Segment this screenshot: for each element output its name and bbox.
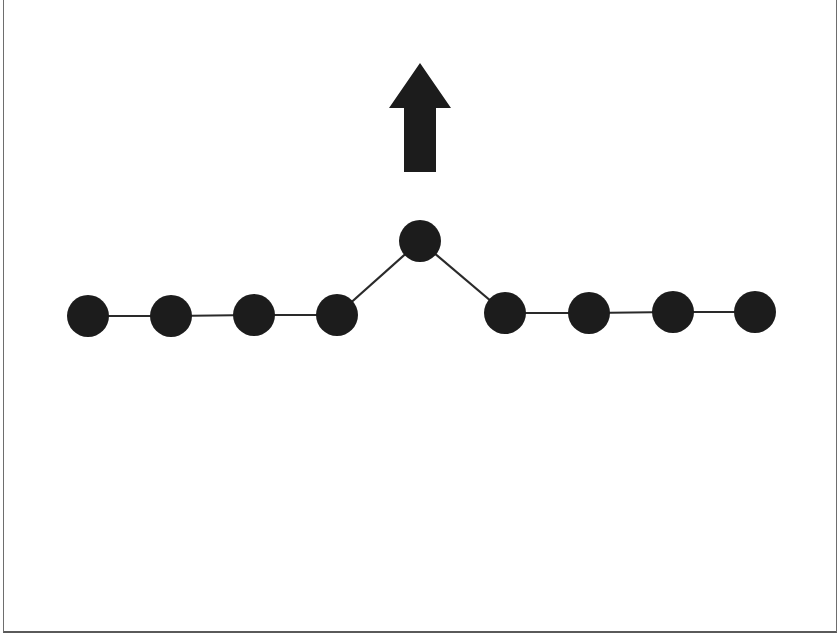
nodes-group [67,220,776,337]
node-chain-diagram [0,0,840,638]
node [67,295,109,337]
up-arrow-icon [389,63,451,172]
node [233,294,275,336]
node-raised [399,220,441,262]
node [652,291,694,333]
node [484,292,526,334]
node [734,291,776,333]
node [150,295,192,337]
node [568,292,610,334]
node [316,294,358,336]
